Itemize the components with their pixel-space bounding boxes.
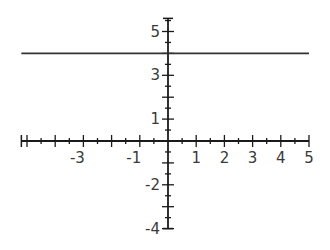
y-tick-label: 3 [150, 66, 160, 84]
chart-plot: -3-112345531-2-4 [0, 0, 330, 250]
x-tick-label: 1 [191, 149, 201, 167]
y-tick-label: -4 [145, 220, 160, 238]
x-tick-label: 2 [220, 149, 230, 167]
y-tick-label: 1 [150, 110, 160, 128]
x-tick-label: 4 [276, 149, 286, 167]
y-tick-label: -2 [145, 176, 160, 194]
tick-labels: -3-112345531-2-4 [70, 23, 314, 238]
x-tick-label: -3 [70, 149, 85, 167]
x-tick-label: 5 [304, 149, 314, 167]
y-tick-label: 5 [150, 23, 160, 41]
x-tick-label: -1 [126, 149, 141, 167]
axes [21, 18, 309, 228]
x-tick-label: 3 [248, 149, 258, 167]
